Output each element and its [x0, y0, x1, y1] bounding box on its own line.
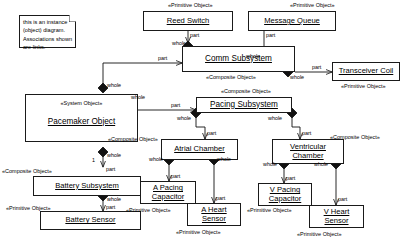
edge-label-part: part	[286, 176, 295, 181]
edge-label-whole: whole	[290, 75, 304, 80]
stereotype-a-heart-sensor: «Primitive Object»	[176, 230, 221, 236]
node-a-heart-sensor[interactable]: A Heart Sensor	[187, 203, 241, 226]
node-message-queue[interactable]: Message Queue	[248, 11, 336, 31]
node-battery-subsystem[interactable]: Battery Subsystem	[33, 176, 141, 196]
node-label: Message Queue	[262, 17, 322, 25]
edge-label-part: part	[106, 205, 115, 210]
stereotype-message-queue: «Primitive Object»	[290, 3, 335, 9]
edge-label-part: part	[312, 65, 321, 70]
edge-label-whole: whole	[131, 95, 145, 100]
edge-label-part: part	[207, 131, 216, 136]
stereotype-comm-subsystem: «Composite Object»	[206, 75, 256, 81]
stereotype-atrial-chamber: «Composite Object»	[108, 137, 158, 143]
edge-label-whole: whole	[107, 153, 121, 158]
node-label: Comm Subsystem	[203, 55, 274, 64]
edge-label-whole: whole	[149, 157, 163, 162]
node-v-heart-sensor[interactable]: V Heart Sensor	[309, 205, 364, 228]
node-comm-subsystem[interactable]: Comm Subsystem	[182, 46, 295, 72]
node-label: Ventricular Chamber	[288, 143, 328, 159]
node-label: Transceiver Coil	[337, 67, 396, 75]
edge-label-multiplicity-one: 1	[92, 158, 95, 163]
node-label: Pacemaker Object	[46, 118, 117, 127]
edge-label-part: part	[216, 196, 225, 201]
node-pacemaker-object[interactable]: «System Object» Pacemaker Object	[25, 94, 138, 142]
edge-label-whole: whole	[246, 54, 260, 59]
edge-label-whole: whole	[177, 116, 191, 121]
edge-label-whole: whole	[217, 157, 231, 162]
node-a-pacing-capacitor[interactable]: A Pacing Capacitor	[140, 181, 196, 204]
node-transceiver-coil[interactable]: Transceiver Coil	[332, 62, 400, 81]
edge-label-part: part	[106, 167, 115, 172]
edge-label-part: part	[338, 197, 347, 202]
edge-label-whole: whole	[268, 116, 282, 121]
edge-label-whole: whole	[314, 162, 328, 167]
node-label: Pacing Subsystem	[208, 101, 280, 110]
diagram-note: this is an instance (object) diagram. As…	[19, 15, 76, 48]
stereotype-pacing-subsystem: «Composite Object»	[221, 89, 271, 95]
node-label: Battery Sensor	[63, 216, 117, 224]
note-text: this is an instance (object) diagram. As…	[19, 15, 76, 52]
stereotype-battery-subsystem: «Composite Object»	[2, 169, 52, 175]
edge-label-part: part	[266, 33, 275, 38]
node-label: A Pacing Capacitor	[150, 184, 187, 200]
stereotype-reed-switch: «Primitive Object»	[168, 3, 213, 9]
edge-label-whole: whole	[107, 83, 121, 88]
uml-object-diagram: this is an instance (object) diagram. As…	[0, 0, 402, 245]
edge-label-whole: whole	[263, 162, 277, 167]
edge-label-part: part	[171, 174, 180, 179]
node-label: V Heart Sensor	[322, 208, 352, 224]
node-v-pacing-capacitor[interactable]: V Pacing Capacitor	[258, 183, 312, 206]
node-label: A Heart Sensor	[199, 206, 228, 222]
edge-label-part: part	[158, 56, 167, 61]
node-label: Atrial Chamber	[172, 145, 227, 153]
edge-label-whole: whole	[107, 197, 121, 202]
stereotype-v-pacing-capacitor: «Primitive Object»	[247, 208, 292, 214]
edge-label-part: part	[302, 131, 311, 136]
stereotype-transceiver-coil: «Primitive Object»	[341, 84, 386, 90]
stereotype-v-heart-sensor: «Primitive Object»	[297, 232, 342, 238]
node-label: Battery Subsystem	[53, 182, 121, 190]
edge-label-part: part	[190, 33, 199, 38]
node-pacing-subsystem[interactable]: Pacing Subsystem	[196, 97, 292, 113]
node-ventricular-chamber[interactable]: Ventricular Chamber	[272, 139, 344, 164]
stereotype-a-pacing-capacitor: «Primitive Object»	[126, 208, 171, 214]
node-battery-sensor[interactable]: Battery Sensor	[40, 211, 141, 230]
node-label: Reed Switch	[165, 17, 212, 25]
edge-label-whole: whole	[172, 41, 186, 46]
stereotype-pacemaker-object: «System Object»	[26, 101, 137, 107]
node-label: V Pacing Capacitor	[267, 186, 304, 202]
edge-label-part: part	[171, 103, 180, 108]
node-reed-switch[interactable]: Reed Switch	[143, 11, 233, 31]
